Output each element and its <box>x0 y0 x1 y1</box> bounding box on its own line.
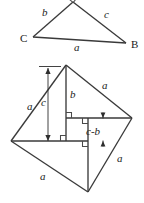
right-angle-marker-3 <box>61 136 67 142</box>
geometry-figure: C B b c a a a a a c b c-b <box>0 0 144 203</box>
right-angle-marker-apex <box>67 0 79 3</box>
square-edge-bottom-left <box>11 141 88 192</box>
label-side-b: b <box>42 6 48 18</box>
right-angle-marker-4 <box>83 141 89 147</box>
right-angle-marker-1 <box>66 113 72 119</box>
label-square-a-lower-right: a <box>117 152 123 164</box>
label-square-a-lower-left: a <box>40 170 46 182</box>
label-inner-b: b <box>70 88 76 100</box>
label-side-a: a <box>74 41 80 53</box>
label-inner-c: c <box>41 96 46 108</box>
square-edge-top-right <box>66 65 132 118</box>
triangle-side-c <box>73 2 126 43</box>
label-vertex-B: B <box>131 38 138 50</box>
label-side-c: c <box>104 8 109 20</box>
bottom-square-group <box>11 65 132 192</box>
label-square-a-upper-left: a <box>27 100 33 112</box>
label-square-a-upper-right: a <box>102 79 108 91</box>
label-inner-c-minus-b: c-b <box>86 125 101 137</box>
right-angle-marker-2 <box>83 118 89 124</box>
label-vertex-C: C <box>20 32 27 44</box>
square-edge-top-left <box>11 65 66 141</box>
triangle-side-a <box>33 37 126 43</box>
triangle-side-b <box>33 2 73 37</box>
figure-canvas: C B b c a a a a a c b c-b <box>0 0 144 203</box>
